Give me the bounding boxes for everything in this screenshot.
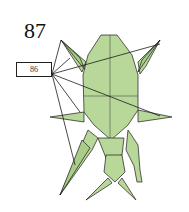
origami-insect-model (0, 0, 189, 212)
body-segment (83, 35, 138, 140)
pointer-line (52, 40, 61, 74)
lower-left-leg-fold (60, 140, 90, 195)
tail-right-prong (118, 178, 136, 200)
middle-left-leg (50, 112, 84, 122)
tail-left-prong (86, 178, 112, 200)
lower-right-leg (126, 130, 142, 182)
middle-right-leg (138, 110, 172, 122)
